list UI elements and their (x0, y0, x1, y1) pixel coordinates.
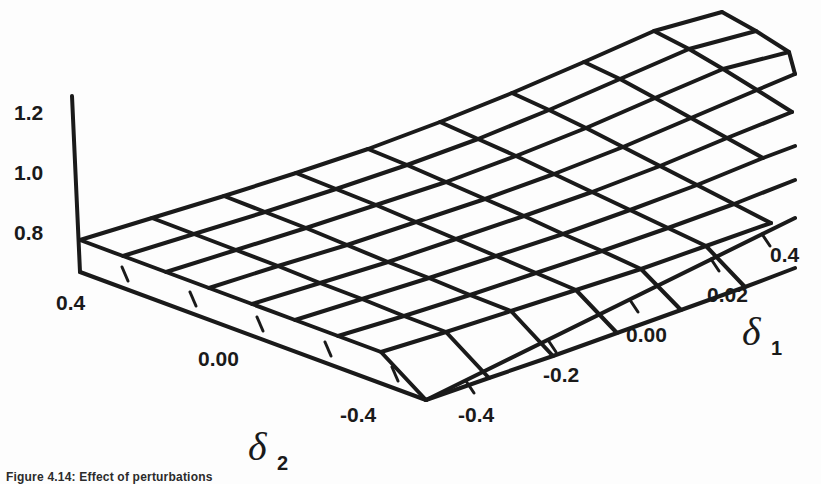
z-axis-tick-labels: 1.2 1.0 0.8 (14, 101, 44, 244)
delta2-axis-title: δ 2 (248, 424, 288, 474)
figure-container: 1.2 1.0 0.8 0.4 0.00 -0.4 -0.4 -0.2 0.00… (0, 0, 821, 484)
z-tick-label: 0.8 (14, 221, 44, 244)
delta1-tick-label: 0.4 (770, 243, 800, 266)
surface-plot-svg: 1.2 1.0 0.8 0.4 0.00 -0.4 -0.4 -0.2 0.00… (0, 0, 821, 484)
delta1-axis-title: δ 1 (742, 309, 782, 359)
delta2-symbol: δ (248, 424, 268, 469)
delta2-tick-label: 0.4 (56, 291, 86, 314)
z-tick-label: 1.2 (14, 101, 43, 124)
delta2-subscript: 2 (277, 452, 288, 474)
delta2-tick-label: 0.00 (198, 347, 239, 370)
delta1-tick-label: 0.02 (707, 283, 748, 306)
figure-caption: Figure 4.14: Effect of perturbations (6, 470, 213, 484)
delta1-tick-label: -0.2 (543, 363, 579, 386)
delta1-tick-label: 0.00 (626, 323, 667, 346)
mesh-rows (80, 12, 795, 400)
delta1-symbol: δ (742, 309, 762, 354)
delta2-ticks (122, 267, 398, 381)
delta2-axis-line (80, 272, 426, 400)
surface-mesh (80, 12, 795, 400)
delta2-tick-label: -0.4 (340, 403, 377, 426)
z-axis-line (72, 96, 80, 272)
z-tick-label: 1.0 (14, 161, 43, 184)
delta1-tick-label: -0.4 (458, 403, 495, 426)
delta1-subscript: 1 (771, 337, 782, 359)
